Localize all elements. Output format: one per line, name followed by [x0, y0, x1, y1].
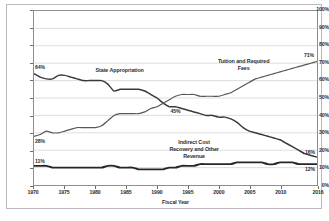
x-tick-label: 1990	[151, 190, 162, 195]
x-tick-mark	[250, 186, 251, 189]
y-tick-mark	[30, 80, 33, 81]
x-tick-label: 2010	[275, 190, 286, 195]
x-tick-mark	[33, 186, 34, 189]
series-line-1	[34, 61, 317, 136]
x-tick-mark	[188, 186, 189, 189]
x-tick-label: 2016	[312, 190, 323, 195]
x-tick-label: 1975	[58, 190, 69, 195]
x-tick-label: 1970	[27, 190, 38, 195]
x-tick-mark	[281, 186, 282, 189]
series-label-state-appropriation: State Appropriation	[96, 67, 144, 74]
series-label-tuition-and-required-fees: Tuition and RequiredFees	[218, 58, 270, 72]
plot-area	[33, 10, 318, 186]
x-tick-mark	[157, 186, 158, 189]
start-label-state-appropriation: 64%	[35, 65, 45, 70]
x-tick-label: 1985	[120, 190, 131, 195]
end-label-tuition: 71%	[304, 53, 314, 58]
y-tick-mark	[30, 133, 33, 134]
y-tick-mark	[30, 10, 33, 11]
y-tick-mark	[30, 63, 33, 64]
x-tick-label: 1980	[89, 190, 100, 195]
y-tick-label: 80%	[299, 43, 329, 48]
y-tick-mark	[30, 45, 33, 46]
y-tick-label: 30%	[299, 131, 329, 136]
y-tick-mark	[30, 168, 33, 169]
y-tick-mark	[30, 98, 33, 99]
crossover-value-label: 45%	[170, 109, 180, 114]
x-tick-mark	[126, 186, 127, 189]
chart-figure: 0%10%20%30%40%50%60%70%80%90%100% 197019…	[0, 0, 329, 221]
x-tick-mark	[64, 186, 65, 189]
series-line-2	[34, 162, 317, 169]
y-tick-label: 50%	[299, 95, 329, 100]
y-tick-mark	[30, 151, 33, 152]
x-tick-label: 1995	[182, 190, 193, 195]
y-tick-label: 70%	[299, 60, 329, 65]
y-tick-mark	[30, 28, 33, 29]
x-tick-mark	[95, 186, 96, 189]
y-tick-label: 0%	[299, 183, 329, 188]
series-label-indirect-cost-recovery: Indirect CostRecovery and OtherRevenue	[169, 139, 218, 159]
x-tick-label: 2000	[213, 190, 224, 195]
x-tick-mark	[318, 186, 319, 189]
end-label-indirect-cost: 12%	[305, 167, 315, 172]
y-tick-label: 90%	[299, 25, 329, 30]
y-tick-label: 60%	[299, 78, 329, 83]
x-axis-title: Fiscal Year	[33, 199, 318, 205]
y-tick-label: 100%	[299, 7, 329, 12]
end-label-state-appropriation: 16%	[305, 150, 315, 155]
x-tick-mark	[219, 186, 220, 189]
start-label-tuition: 28%	[35, 139, 45, 144]
start-label-indirect-cost: 11%	[35, 159, 45, 164]
y-tick-label: 40%	[299, 113, 329, 118]
x-tick-label: 2005	[244, 190, 255, 195]
y-tick-mark	[30, 116, 33, 117]
